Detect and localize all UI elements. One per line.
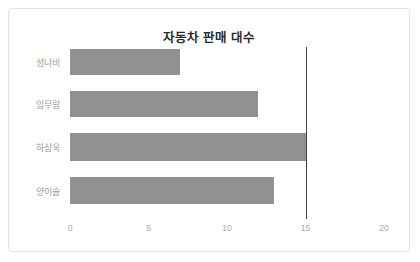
category-label: 하삼욱 <box>36 141 60 154</box>
x-tick-label: 5 <box>146 223 151 233</box>
x-tick-label: 20 <box>379 223 388 233</box>
x-axis: 0 5 10 15 20 <box>70 223 384 243</box>
x-tick-label: 15 <box>301 223 310 233</box>
x-tick-label: 0 <box>68 223 73 233</box>
bar-value[interactable] <box>70 133 306 161</box>
plot-area: 성나비 임무람 하삼욱 양이슬 <box>70 47 384 219</box>
bar-value[interactable] <box>70 49 180 75</box>
chart-title: 자동차 판매 대수 <box>9 27 409 46</box>
x-tick-label: 10 <box>222 223 231 233</box>
category-label: 양이슬 <box>36 184 60 197</box>
bar-row: 임무람 <box>70 91 384 117</box>
category-label: 임무람 <box>36 98 60 111</box>
bar-row: 양이슬 <box>70 177 384 204</box>
reference-line <box>306 47 308 219</box>
bar-row: 성나비 <box>70 49 384 75</box>
chart-card: 자동차 판매 대수 성나비 임무람 하삼욱 양이슬 0 5 10 15 20 <box>8 8 410 252</box>
category-label: 성나비 <box>36 56 60 69</box>
bar-value[interactable] <box>70 91 258 117</box>
bar-value[interactable] <box>70 177 274 204</box>
bar-row: 하삼욱 <box>70 133 384 161</box>
